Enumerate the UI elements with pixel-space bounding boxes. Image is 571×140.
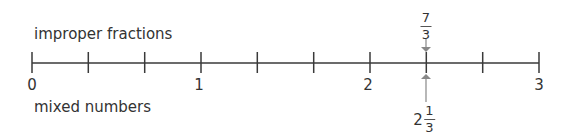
tick-label-3: 3 xyxy=(534,76,544,94)
mixed-numerator: 1 xyxy=(425,104,433,118)
tick-label-2: 2 xyxy=(363,76,373,94)
mixed-whole: 2 xyxy=(413,111,423,129)
number-line xyxy=(0,0,571,140)
tick-label-0: 0 xyxy=(27,76,37,94)
improper-denominator: 3 xyxy=(422,28,430,42)
mixed-number-label: 2 1 3 xyxy=(413,104,435,135)
improper-numerator: 7 xyxy=(422,11,430,25)
mixed-denominator: 3 xyxy=(425,121,433,135)
improper-fraction-label: 7 3 xyxy=(421,7,432,42)
tick-label-1: 1 xyxy=(194,76,204,94)
